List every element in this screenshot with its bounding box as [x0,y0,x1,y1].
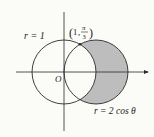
svg-text:): ) [89,26,93,40]
label-r-2cos: r = 2 cos θ [94,106,136,116]
svg-text:1: 1 [73,27,77,37]
svg-text:,: , [78,27,80,37]
svg-text:3: 3 [83,33,86,40]
intersection-label: ( 1 , π 3 ) [69,24,93,40]
origin-label: O [55,74,62,84]
label-r1: r = 1 [24,30,45,41]
intersection-point [79,43,82,46]
svg-text:π: π [82,24,86,32]
polar-diagram: r = 1 O r = 2 cos θ ( 1 , π 3 ) [0,0,154,137]
